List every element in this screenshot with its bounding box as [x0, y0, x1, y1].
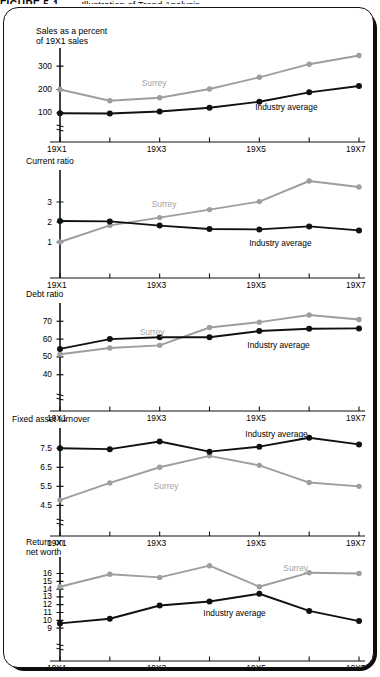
x-tick-label: 19X5	[246, 663, 266, 668]
data-point-surrey	[257, 75, 262, 80]
series-annotation-surrey: Surrey	[283, 563, 308, 573]
chart-svg-fixed-asset-turnover	[4, 426, 373, 538]
y-tick-label: 70	[18, 316, 52, 326]
data-point-surrey	[107, 572, 112, 577]
series-line-surrey	[60, 56, 359, 101]
data-point-industry	[306, 223, 312, 229]
data-point-surrey	[356, 184, 361, 189]
data-point-industry	[256, 328, 262, 334]
chart-fixed-asset-turnover: Fixed asset turnover 4.55.56.57.519X119X…	[4, 414, 373, 536]
data-point-industry	[306, 326, 312, 332]
data-point-industry	[107, 336, 113, 342]
y-tick-label: 6.5	[18, 462, 52, 472]
data-point-industry	[157, 109, 163, 115]
chart-title-sales-percent: Sales as a percent of 19X1 sales	[36, 26, 107, 46]
chart-title-debt-ratio: Debt ratio	[26, 289, 63, 299]
x-tick-label: 19X7	[346, 663, 366, 668]
figure-panel: Sales as a percent of 19X1 sales 1002003…	[3, 7, 374, 668]
series-annotation-surrey: Surrey	[154, 481, 179, 491]
y-tick-label: 60	[18, 334, 52, 344]
data-point-surrey	[107, 345, 112, 350]
y-tick-label: 40	[18, 369, 52, 379]
data-point-industry	[107, 616, 113, 622]
chart-svg-debt-ratio	[4, 301, 373, 413]
data-point-industry	[107, 110, 113, 116]
data-point-industry	[157, 602, 163, 608]
data-point-industry	[356, 618, 362, 624]
y-tick-label: 9	[18, 623, 52, 633]
series-annotation-surrey: Surrey	[152, 199, 177, 209]
y-tick-label: 1	[18, 237, 52, 247]
data-point-industry	[356, 325, 362, 331]
data-point-surrey	[107, 98, 112, 103]
series-annotation-industry: Industry average	[247, 340, 309, 350]
data-point-surrey	[356, 571, 361, 576]
chart-sales-percent: Sales as a percent of 19X1 sales 1002003…	[4, 26, 373, 148]
data-point-surrey	[57, 584, 62, 589]
data-point-industry	[207, 334, 213, 340]
chart-current-ratio: Current ratio 12319X119X319X519X7SurreyI…	[4, 156, 373, 278]
y-tick-label: 7.5	[18, 443, 52, 453]
data-point-industry	[207, 226, 213, 232]
data-point-surrey	[257, 319, 262, 324]
data-point-surrey	[157, 575, 162, 580]
figure-title: Illustration of Trend Analysis	[81, 0, 199, 4]
data-point-surrey	[57, 87, 62, 92]
data-point-surrey	[157, 95, 162, 100]
series-annotation-industry: Industry average	[203, 608, 265, 618]
data-point-industry	[57, 110, 63, 116]
y-tick-label: 50	[18, 351, 52, 361]
data-point-surrey	[306, 480, 311, 485]
y-tick-label: 2	[18, 217, 52, 227]
data-point-surrey	[257, 463, 262, 468]
data-point-industry	[256, 444, 262, 450]
data-point-industry	[57, 346, 63, 352]
data-point-industry	[157, 223, 163, 229]
chart-svg-current-ratio	[4, 168, 373, 280]
series-line-surrey	[60, 456, 359, 500]
series-annotation-industry: Industry average	[249, 238, 311, 248]
plot-area-debt-ratio: 4050607019X119X319X519X7SurreyIndustry a…	[4, 301, 373, 413]
y-tick-label: 5.5	[18, 481, 52, 491]
data-point-industry	[356, 227, 362, 233]
data-point-industry	[356, 83, 362, 89]
y-tick-label: 3	[18, 197, 52, 207]
data-point-industry	[207, 599, 213, 605]
chart-return-on-net-worth: Return on net worth 16151413121110919X11…	[4, 537, 373, 665]
data-point-surrey	[306, 61, 311, 66]
data-point-surrey	[57, 497, 62, 502]
data-point-industry	[57, 445, 63, 451]
x-tick-label: 19X1	[47, 663, 67, 668]
data-point-surrey	[356, 317, 361, 322]
data-point-surrey	[57, 352, 62, 357]
data-point-industry	[107, 446, 113, 452]
data-point-surrey	[356, 53, 361, 58]
figure-number: FIGURE 5-1	[0, 0, 59, 4]
data-point-surrey	[257, 584, 262, 589]
data-point-industry	[207, 105, 213, 111]
x-tick-label: 19X3	[147, 144, 167, 154]
series-annotation-industry: Industry average	[245, 429, 307, 439]
y-tick-label: 300	[18, 61, 52, 71]
data-point-industry	[207, 449, 213, 455]
y-tick-label: 4.5	[18, 500, 52, 510]
data-point-surrey	[207, 207, 212, 212]
series-annotation-surrey: Surrey	[142, 78, 167, 88]
x-tick-label: 19X1	[47, 144, 67, 154]
data-point-surrey	[207, 86, 212, 91]
data-point-surrey	[157, 343, 162, 348]
data-point-industry	[157, 439, 163, 445]
chart-svg-sales-percent	[4, 48, 373, 148]
y-tick-label: 200	[18, 84, 52, 94]
x-tick-label: 19X7	[346, 144, 366, 154]
data-point-industry	[256, 226, 262, 232]
y-tick-label: 100	[18, 107, 52, 117]
data-point-surrey	[306, 178, 311, 183]
data-point-industry	[356, 441, 362, 447]
data-point-surrey	[107, 480, 112, 485]
series-annotation-surrey: Surrey	[140, 327, 165, 337]
data-point-industry	[57, 218, 63, 224]
figure-caption: FIGURE 5-1 Illustration of Trend Analysi…	[0, 0, 380, 4]
data-point-surrey	[57, 239, 62, 244]
data-point-surrey	[306, 312, 311, 317]
